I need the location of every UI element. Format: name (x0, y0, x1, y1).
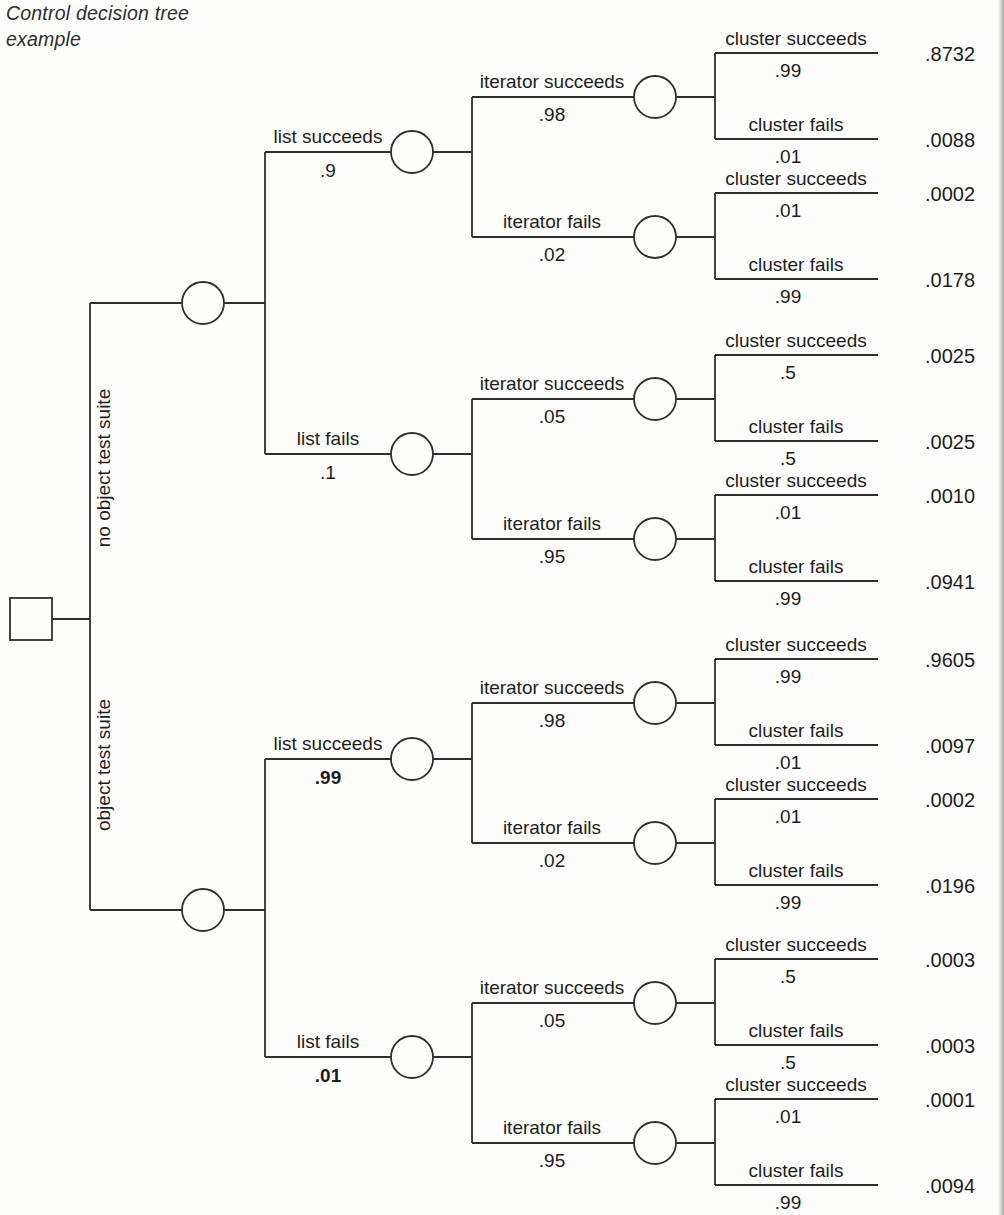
chance-node (391, 738, 433, 780)
outcome-value: .0196 (925, 875, 975, 897)
decision-root-node (10, 598, 52, 640)
iterator-branch-label: iterator succeeds (480, 677, 625, 698)
cluster-branch-label: cluster fails (748, 114, 843, 135)
iterator-branch-label: iterator fails (503, 211, 601, 232)
list-branch-probability: .9 (320, 160, 336, 181)
chance-node (391, 131, 433, 173)
cluster-branch-label: cluster succeeds (725, 934, 867, 955)
list-branch-label: list fails (297, 1031, 359, 1052)
iterator-branch-label: iterator succeeds (480, 977, 625, 998)
chance-node (634, 518, 676, 560)
chance-node (391, 1036, 433, 1078)
cluster-branch-probability: .5 (780, 1052, 796, 1073)
chance-node (634, 216, 676, 258)
cluster-branch-probability: .5 (780, 448, 796, 469)
outcome-value: .0097 (925, 735, 975, 757)
outcome-value: .0178 (925, 269, 975, 291)
list-branch-probability: .1 (320, 462, 336, 483)
iterator-branch-probability: .95 (539, 1150, 565, 1171)
cluster-branch-probability: .99 (775, 892, 801, 913)
cluster-branch-label: cluster fails (748, 1160, 843, 1181)
cluster-branch-probability: .99 (775, 286, 801, 307)
cluster-branch-label: cluster fails (748, 556, 843, 577)
decision-tree-diagram: no object test suitelist succeeds.9itera… (0, 0, 1004, 1215)
outcome-value: .0002 (925, 789, 975, 811)
iterator-branch-probability: .98 (539, 104, 565, 125)
cluster-branch-probability: .01 (775, 1106, 801, 1127)
chance-node (634, 982, 676, 1024)
chance-node (634, 76, 676, 118)
iterator-branch-probability: .05 (539, 406, 565, 427)
outcome-value: .0002 (925, 183, 975, 205)
chance-node (634, 378, 676, 420)
cluster-branch-probability: .99 (775, 60, 801, 81)
outcome-value: .9605 (925, 649, 975, 671)
outcome-value: .0001 (925, 1089, 975, 1111)
outcome-value: .0025 (925, 345, 975, 367)
cluster-branch-label: cluster succeeds (725, 1074, 867, 1095)
cluster-branch-probability: .01 (775, 146, 801, 167)
list-branch-label: list succeeds (274, 126, 383, 147)
cluster-branch-probability: .99 (775, 1192, 801, 1213)
cluster-branch-label: cluster fails (748, 254, 843, 275)
iterator-branch-label: iterator succeeds (480, 373, 625, 394)
chance-node (182, 889, 224, 931)
cluster-branch-probability: .99 (775, 666, 801, 687)
list-branch-label: list succeeds (274, 733, 383, 754)
list-branch-probability: .99 (315, 767, 341, 788)
cluster-branch-probability: .01 (775, 502, 801, 523)
cluster-branch-label: cluster fails (748, 720, 843, 741)
outcome-value: .0003 (925, 1035, 975, 1057)
cluster-branch-probability: .5 (780, 362, 796, 383)
cluster-branch-label: cluster succeeds (725, 168, 867, 189)
outcome-value: .0941 (925, 571, 975, 593)
cluster-branch-label: cluster fails (748, 860, 843, 881)
chance-node (634, 822, 676, 864)
outcome-value: .0094 (925, 1175, 975, 1197)
chance-node (634, 682, 676, 724)
outcome-value: .0010 (925, 485, 975, 507)
outcome-value: .0025 (925, 431, 975, 453)
page-edge-shadow (998, 0, 1004, 1215)
list-branch-probability: .01 (315, 1065, 342, 1086)
iterator-branch-probability: .95 (539, 546, 565, 567)
cluster-branch-label: cluster succeeds (725, 330, 867, 351)
iterator-branch-label: iterator fails (503, 1117, 601, 1138)
cluster-branch-label: cluster succeeds (725, 28, 867, 49)
chance-node (634, 1122, 676, 1164)
chance-node (391, 433, 433, 475)
iterator-branch-probability: .05 (539, 1010, 565, 1031)
cluster-branch-label: cluster fails (748, 1020, 843, 1041)
list-branch-label: list fails (297, 428, 359, 449)
outcome-value: .0088 (925, 129, 975, 151)
cluster-branch-label: cluster succeeds (725, 470, 867, 491)
cluster-branch-probability: .01 (775, 806, 801, 827)
chance-node (182, 282, 224, 324)
outcome-value: .8732 (925, 43, 975, 65)
cluster-branch-probability: .5 (780, 966, 796, 987)
cluster-branch-label: cluster succeeds (725, 634, 867, 655)
iterator-branch-probability: .02 (539, 244, 565, 265)
suite-branch-label: no object test suite (93, 389, 114, 547)
cluster-branch-probability: .01 (775, 752, 801, 773)
iterator-branch-label: iterator succeeds (480, 71, 625, 92)
suite-branch-label: object test suite (93, 699, 114, 831)
cluster-branch-label: cluster succeeds (725, 774, 867, 795)
cluster-branch-probability: .01 (775, 200, 801, 221)
iterator-branch-label: iterator fails (503, 817, 601, 838)
iterator-branch-label: iterator fails (503, 513, 601, 534)
cluster-branch-label: cluster fails (748, 416, 843, 437)
decision-tree-page: Control decision tree example no object … (0, 0, 1004, 1215)
cluster-branch-probability: .99 (775, 588, 801, 609)
iterator-branch-probability: .02 (539, 850, 565, 871)
iterator-branch-probability: .98 (539, 710, 565, 731)
outcome-value: .0003 (925, 949, 975, 971)
